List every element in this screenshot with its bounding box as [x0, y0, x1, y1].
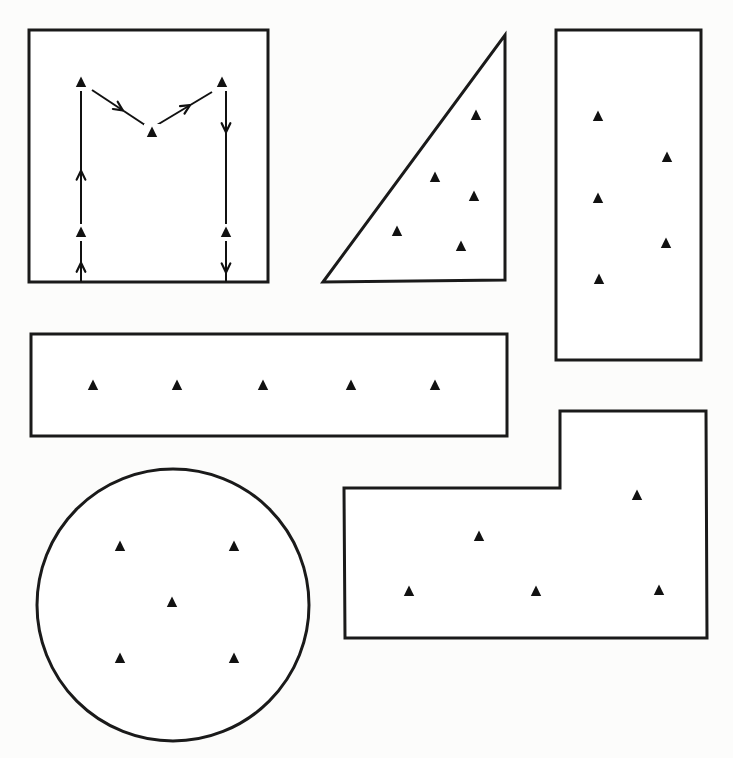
sampling-patterns-figure	[0, 0, 733, 758]
diagram-canvas: Square plot with M-shaped (traverse) sam…	[0, 0, 733, 758]
triangle-outline	[323, 35, 505, 282]
l-shape-outline	[344, 411, 707, 638]
tall-rectangle-outline	[556, 30, 701, 360]
square-plot	[29, 30, 268, 282]
tall-rectangle-plot	[556, 30, 701, 360]
circle-plot	[37, 469, 309, 741]
l-shape-plot	[344, 411, 707, 638]
triangle-plot	[323, 35, 505, 282]
wide-rectangle-plot	[31, 334, 507, 436]
square-outline	[29, 30, 268, 282]
